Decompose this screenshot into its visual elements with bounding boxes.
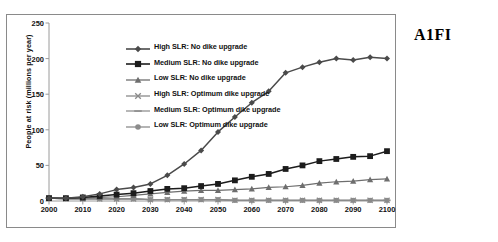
chart-frame: People at risk (millions per year) 05010… [6,14,396,228]
legend-marker-circle-icon [125,119,151,131]
legend-item-4: High SLR: Optimum dike upgrade [125,86,281,102]
y-tick-label: 50 [36,161,44,170]
legend: High SLR: No dike upgradeMedium SLR: No … [125,39,281,133]
x-tick-label: 2010 [74,205,91,214]
y-tick-label: 200 [31,54,44,63]
legend-label: Medium SLR: No dike upgrade [154,58,258,67]
x-tick-label: 2080 [311,205,328,214]
x-tick-label: 2050 [210,205,227,214]
x-tick-label: 2060 [243,205,260,214]
scenario-label: A1FI [414,26,452,44]
legend-marker-triangle-icon [125,72,151,84]
x-tick-label: 2030 [142,205,159,214]
legend-label: Low SLR: No dike upgrade [154,73,246,82]
y-tick-label: 150 [31,90,44,99]
chart-screenshot: People at risk (millions per year) 05010… [0,0,498,242]
legend-item-3: Low SLR: No dike upgrade [125,70,281,86]
x-tick-label: 2070 [277,205,294,214]
y-tick-label: 250 [31,19,44,28]
y-tick-label: 100 [31,125,44,134]
legend-item-6: Low SLR: Optimum dike upgrade [125,117,281,133]
legend-label: High SLR: No dike upgrade [154,42,247,51]
x-tick-label: 2000 [41,205,58,214]
legend-marker-diamond-icon [125,41,151,53]
legend-label: Medium SLR: Optimum dike upgrade [154,105,281,114]
legend-label: High SLR: Optimum dike upgrade [154,89,269,98]
x-tick-label: 2100 [379,205,396,214]
legend-item-5: Medium SLR: Optimum dike upgrade [125,101,281,117]
legend-label: Low SLR: Optimum dike upgrade [154,120,268,129]
x-tick-label: 2090 [345,205,362,214]
x-tick-label: 2040 [176,205,193,214]
legend-marker-dash-icon [125,103,151,115]
x-tick-label: 2020 [108,205,125,214]
legend-item-1: High SLR: No dike upgrade [125,39,281,55]
legend-marker-square-icon [125,56,151,68]
legend-marker-x-icon [125,88,151,100]
legend-item-2: Medium SLR: No dike upgrade [125,55,281,71]
